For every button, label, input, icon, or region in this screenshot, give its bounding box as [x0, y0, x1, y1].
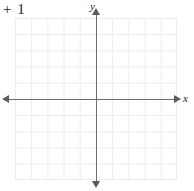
x-axis-right-arrow-icon	[174, 95, 181, 103]
expression-fragment: + 1	[3, 0, 26, 18]
y-axis-label: y	[90, 1, 95, 12]
y-axis-line	[96, 13, 97, 184]
x-axis-line	[7, 99, 179, 100]
x-axis-left-arrow-icon	[2, 95, 9, 103]
coordinate-plane-figure: + 1 x y	[0, 0, 194, 191]
y-axis-down-arrow-icon	[92, 181, 100, 188]
x-axis-label: x	[183, 93, 188, 104]
